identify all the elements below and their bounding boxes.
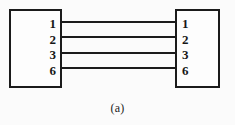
right-pin-6: 6 [182,63,189,79]
figure-diagram: 1 2 3 6 1 2 3 6 (a) [0,0,235,125]
figure-caption: (a) [0,101,235,116]
left-pin-2: 2 [50,32,57,48]
right-pin-1: 1 [182,16,189,32]
wire-pin-2-to-pin-2 [62,36,175,38]
wire-pin-3-to-pin-3 [62,52,175,54]
left-connector-pin-list: 1 2 3 6 [50,11,57,86]
right-connector: 1 2 3 6 [175,9,220,88]
wire-pin-6-to-pin-6 [62,67,175,69]
wire-pin-1-to-pin-1 [62,21,175,23]
right-pin-3: 3 [182,47,189,63]
left-pin-3: 3 [50,47,57,63]
left-connector: 1 2 3 6 [9,9,62,88]
left-pin-6: 6 [50,63,57,79]
left-pin-1: 1 [50,16,57,32]
right-pin-2: 2 [182,32,189,48]
right-connector-pin-list: 1 2 3 6 [182,11,189,86]
